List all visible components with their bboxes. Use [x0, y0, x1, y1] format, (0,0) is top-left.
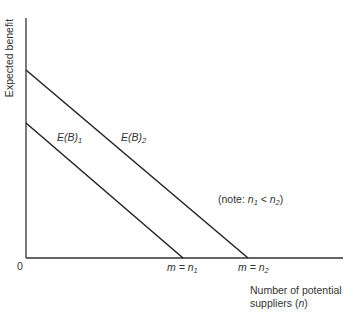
x-axis-label-line1: Number of potential	[250, 284, 342, 297]
xl2-text: suppliers (	[250, 297, 298, 309]
eb1-sub: 1	[78, 136, 82, 145]
eb1-main: E(B)	[57, 131, 78, 143]
note-end: )	[280, 193, 284, 205]
eb2-main: E(B)	[121, 131, 142, 143]
xl2-end: )	[304, 297, 308, 309]
m-n1-sub: 1	[194, 266, 198, 275]
series-eb2-label: E(B)2	[121, 131, 146, 145]
eb2-sub: 2	[142, 136, 146, 145]
series-eb1-line	[26, 123, 183, 258]
note-annotation: (note: n1 < n2)	[218, 193, 283, 207]
x-intercept-n2-label: m = n2	[238, 261, 269, 275]
x-axis-label: Number of potential suppliers (n)	[250, 284, 342, 310]
x-intercept-n1-label: m = n1	[167, 261, 198, 275]
m-eq-n2: m = n	[238, 261, 265, 273]
note-lt: <	[258, 193, 270, 205]
series-eb2-line	[26, 70, 248, 258]
y-axis-label: Expected benefit	[3, 13, 15, 103]
note-prefix: (note:	[218, 193, 248, 205]
origin-label: 0	[17, 260, 23, 272]
m-eq-n1: m = n	[167, 261, 194, 273]
x-axis-label-line2: suppliers (n)	[250, 297, 342, 310]
series-eb1-label: E(B)1	[57, 131, 82, 145]
m-n2-sub: 2	[265, 266, 269, 275]
